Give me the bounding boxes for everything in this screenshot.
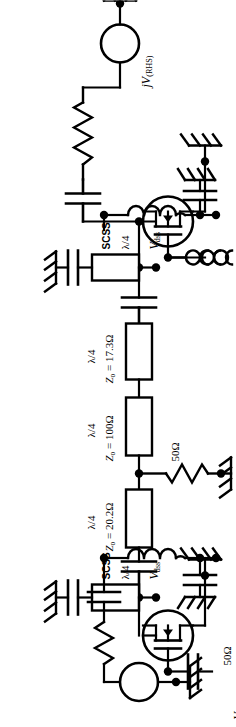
inductor-lhs-coils xyxy=(128,549,185,558)
terminal-dot-vgs-lhs xyxy=(212,554,220,562)
ground-source-lhs xyxy=(190,658,201,698)
gate-bias-chain-lhs xyxy=(100,549,220,608)
schematic-canvas: jV(RHS) V(LHS) 50Ω 50Ω Zo = 17.3Ω λ/4 Zo… xyxy=(0,0,236,727)
ground-vgs-rhs xyxy=(178,169,215,180)
inductor-rhs-coils xyxy=(128,206,185,215)
ground-vgs-lhs xyxy=(178,597,215,608)
terminal-dot-vgs-rhs xyxy=(212,211,220,219)
gate-bias-chain-rhs xyxy=(100,169,220,230)
lhs-drive-chain xyxy=(88,558,201,701)
resistor-source-lhs xyxy=(95,622,113,664)
voltage-source-lhs-symbol xyxy=(120,663,158,701)
schematic-overlay xyxy=(0,0,236,727)
